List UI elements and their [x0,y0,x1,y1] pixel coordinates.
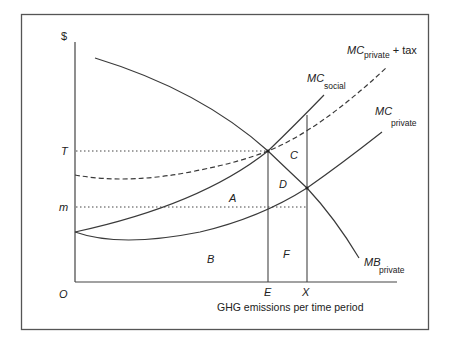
externality-diagram: $ O T m E X GHG emissions per time perio… [0,0,450,349]
price-label-t: T [61,145,69,157]
mc-private-tax-main: MC [347,44,364,56]
area-label-f: F [283,248,291,260]
area-label-d: D [279,178,287,190]
mc-social-sub: social [324,81,346,91]
origin-label: O [59,288,68,300]
mc-private-tax-label: MCprivate + tax [347,44,417,60]
quantity-label-e: E [264,286,272,298]
area-label-a: A [228,192,236,204]
intersection-point-e [266,149,269,152]
area-label-c: C [290,149,298,161]
x-axis-label: GHG emissions per time period [217,301,364,313]
mc-private-tax-sub: private [364,50,390,60]
area-label-b: B [207,253,214,265]
y-axis-label: $ [61,30,67,42]
mc-social-curve [75,95,324,232]
mb-private-sub: private [379,265,405,275]
mc-private-tax-suffix: + tax [390,44,418,56]
quantity-label-x: X [301,286,310,298]
mc-private-sub: private [391,118,417,128]
mc-social-label: MC [307,72,324,84]
intersection-point-x [305,186,308,189]
mc-private-label: MC [375,105,392,117]
mc-social-main: MC [307,72,324,84]
price-label-m: m [59,201,68,213]
mb-private-curve [95,58,359,258]
